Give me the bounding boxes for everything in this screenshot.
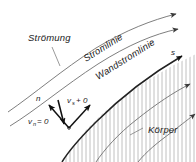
tangential-velocity-vector [69,105,90,128]
leader-koerper [130,128,143,135]
leader-stroemung [52,47,60,66]
normal-vector-n [49,105,69,128]
normal-velocity-vector [58,100,64,124]
label-tangential-velocity: v s + 0 [67,96,88,106]
streamline-outer [8,14,176,112]
label-tangent-direction-s: s [171,48,175,57]
fluid-flow-diagram: Strömung Stromlinie Wandstromlinie Körpe… [0,0,196,162]
label-vn-relation: = 0 [37,117,49,126]
label-normal-vector-n: n [36,94,41,103]
label-vs-subscript: s [72,100,75,106]
label-normal-velocity: v n = 0 [28,117,49,127]
label-vs-relation: + 0 [76,96,88,105]
label-stroemung: Strömung [28,32,71,43]
label-koerper: Körper [148,124,178,135]
label-vn-subscript: n [33,121,36,127]
body-contour-2 [138,114,195,162]
diagram-canvas: Strömung Stromlinie Wandstromlinie Körpe… [0,0,196,162]
